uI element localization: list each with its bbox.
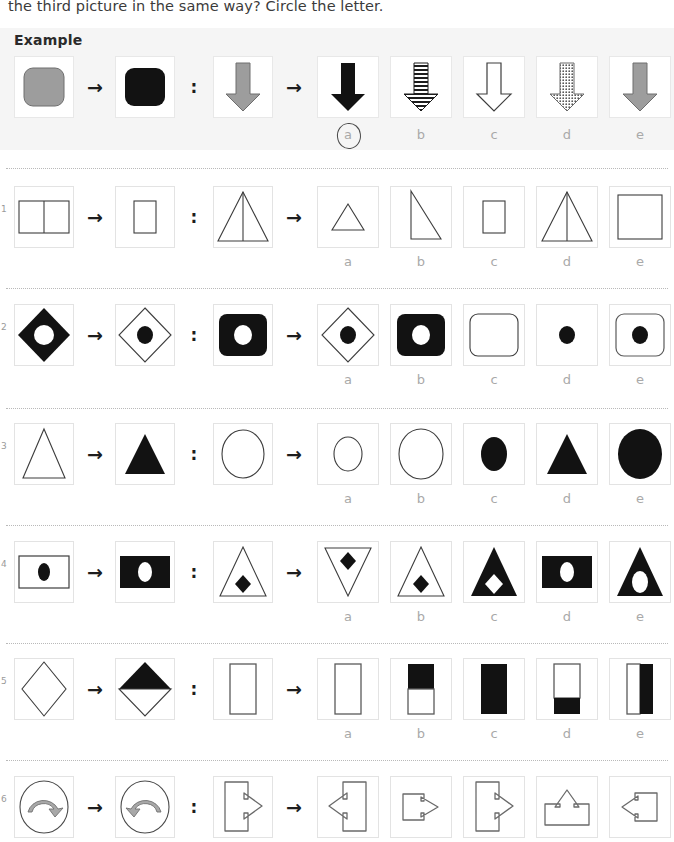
q1-option-a[interactable]: [317, 186, 379, 248]
q4-letter-e[interactable]: e: [609, 609, 671, 624]
example-arrow-2: →: [275, 56, 313, 118]
q4-prompt-cell-3[interactable]: [213, 541, 273, 603]
q4-option-e[interactable]: [609, 541, 671, 603]
q3-letter-a[interactable]: a: [317, 491, 379, 506]
q2-letter-d[interactable]: d: [536, 372, 598, 387]
q5-letter-c[interactable]: c: [463, 726, 525, 741]
q2-letter-e[interactable]: e: [609, 372, 671, 387]
q2-prompt-cell-2[interactable]: [115, 304, 175, 366]
q5-letter-d[interactable]: d: [536, 726, 598, 741]
q6-option-d[interactable]: [536, 776, 598, 838]
small-rectangle-icon: [477, 195, 511, 239]
q4-prompt-cell-2[interactable]: [115, 541, 175, 603]
outline-diamond-black-dot-icon: [117, 306, 173, 364]
example-option-a[interactable]: [317, 56, 379, 118]
q1-letter-d[interactable]: d: [536, 254, 598, 269]
q6-option-a[interactable]: [317, 776, 379, 838]
q1-option-c[interactable]: [463, 186, 525, 248]
q2-letter-c[interactable]: c: [463, 372, 525, 387]
q3-option-d[interactable]: [536, 423, 598, 485]
example-option-b[interactable]: [390, 56, 452, 118]
q6-option-e[interactable]: [609, 776, 671, 838]
q5-prompt-cell-2[interactable]: [115, 658, 175, 720]
q1-option-d[interactable]: [536, 186, 598, 248]
q3-letter-e[interactable]: e: [609, 491, 671, 506]
q3-option-c[interactable]: [463, 423, 525, 485]
q2-prompt-cell-3[interactable]: [213, 304, 273, 366]
q1-letter-b[interactable]: b: [390, 254, 452, 269]
example-prompt-cell-1[interactable]: [14, 56, 74, 118]
q2-prompt-cell-1[interactable]: [14, 304, 74, 366]
q5-option-e[interactable]: [609, 658, 671, 720]
q6-prompt-cell-3[interactable]: [213, 776, 273, 838]
q5-letter-a[interactable]: a: [317, 726, 379, 741]
q2-option-d[interactable]: [536, 304, 598, 366]
example-letter-c[interactable]: c: [463, 127, 525, 142]
example-option-e[interactable]: [609, 56, 671, 118]
q4-prompt-cell-1[interactable]: [14, 541, 74, 603]
q1-option-b[interactable]: [390, 186, 452, 248]
q4-letter-a[interactable]: a: [317, 609, 379, 624]
q3-option-e[interactable]: [609, 423, 671, 485]
question-row-1: 1 → : →: [0, 186, 674, 286]
q3-option-b[interactable]: [390, 423, 452, 485]
question-row-6: 6 → : →: [0, 776, 674, 842]
q5-prompt-cell-1[interactable]: [14, 658, 74, 720]
q3-letter-c[interactable]: c: [463, 491, 525, 506]
example-letter-d[interactable]: d: [536, 127, 598, 142]
q1-arrow-2: →: [275, 186, 313, 248]
q4-letter-c[interactable]: c: [463, 609, 525, 624]
q3-prompt-cell-3[interactable]: [213, 423, 273, 485]
q2-option-a[interactable]: [317, 304, 379, 366]
example-letter-a[interactable]: a: [317, 127, 379, 142]
q4-colon: :: [177, 541, 211, 603]
q2-letter-b[interactable]: b: [390, 372, 452, 387]
example-prompt-cell-2[interactable]: [115, 56, 175, 118]
q1-option-e[interactable]: [609, 186, 671, 248]
example-prompt-cell-3[interactable]: [213, 56, 273, 118]
q2-option-e[interactable]: [609, 304, 671, 366]
q6-option-c[interactable]: [463, 776, 525, 838]
q2-option-b[interactable]: [390, 304, 452, 366]
q4-option-c[interactable]: [463, 541, 525, 603]
q5-option-a[interactable]: [317, 658, 379, 720]
q5-option-d[interactable]: [536, 658, 598, 720]
q6-option-b[interactable]: [390, 776, 452, 838]
example-letter-e[interactable]: e: [609, 127, 671, 142]
q4-option-a[interactable]: [317, 541, 379, 603]
q5-option-b[interactable]: [390, 658, 452, 720]
example-option-c[interactable]: [463, 56, 525, 118]
q3-letter-d[interactable]: d: [536, 491, 598, 506]
q1-prompt-cell-2[interactable]: [115, 186, 175, 248]
example-letter-b[interactable]: b: [390, 127, 452, 142]
row-divider-3: [6, 408, 668, 409]
q5-letter-b[interactable]: b: [390, 726, 452, 741]
q1-prompt-cell-3[interactable]: [213, 186, 273, 248]
q4-option-d[interactable]: [536, 541, 598, 603]
q1-letter-e[interactable]: e: [609, 254, 671, 269]
black-triangle-icon: [120, 430, 170, 478]
q4-letter-d[interactable]: d: [536, 609, 598, 624]
q1-letter-c[interactable]: c: [463, 254, 525, 269]
q3-prompt-cell-1[interactable]: [14, 423, 74, 485]
q5-letter-e[interactable]: e: [609, 726, 671, 741]
q1-letter-a[interactable]: a: [317, 254, 379, 269]
q6-prompt-cell-2[interactable]: [115, 776, 175, 838]
example-option-d[interactable]: [536, 56, 598, 118]
empty-rounded-square-icon: [468, 311, 520, 359]
q5-arrow-1: →: [76, 658, 114, 720]
q6-prompt-cell-1[interactable]: [14, 776, 74, 838]
q3-prompt-cell-2[interactable]: [115, 423, 175, 485]
outline-triangle-icon: [17, 426, 71, 482]
outline-triangle-black-diamond-icon: [394, 544, 448, 600]
q3-option-a[interactable]: [317, 423, 379, 485]
q2-option-c[interactable]: [463, 304, 525, 366]
q4-letter-b[interactable]: b: [390, 609, 452, 624]
q2-letter-a[interactable]: a: [317, 372, 379, 387]
q5-option-c[interactable]: [463, 658, 525, 720]
q5-prompt-cell-3[interactable]: [213, 658, 273, 720]
q3-letter-b[interactable]: b: [390, 491, 452, 506]
black-down-arrow-icon: [328, 61, 368, 113]
q1-prompt-cell-1[interactable]: [14, 186, 74, 248]
q4-option-b[interactable]: [390, 541, 452, 603]
